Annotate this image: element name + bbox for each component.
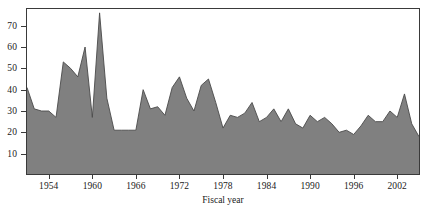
x-tick-label: 1966 xyxy=(126,181,145,192)
x-tick-mark xyxy=(310,175,311,179)
y-tick-label: 20 xyxy=(7,127,17,137)
x-axis: Fiscal year 1954196019661972197819841990… xyxy=(0,175,426,209)
y-tick-label: 50 xyxy=(7,63,17,73)
x-tick-label: 2002 xyxy=(388,181,407,192)
x-tick-label: 1960 xyxy=(83,181,102,192)
chart-container: 10203040506070 Fiscal year 1954196019661… xyxy=(0,0,426,209)
x-tick-mark xyxy=(136,175,137,179)
x-tick-label: 1978 xyxy=(213,181,232,192)
plot-area xyxy=(26,8,420,175)
y-tick-label: 40 xyxy=(7,85,17,95)
x-tick-mark xyxy=(179,175,180,179)
x-tick-label: 1984 xyxy=(257,181,276,192)
x-tick-label: 1954 xyxy=(39,181,58,192)
y-tick-label: 10 xyxy=(7,149,17,159)
x-tick-mark xyxy=(267,175,268,179)
area-fill xyxy=(27,13,419,174)
x-tick-mark xyxy=(49,175,50,179)
area-series xyxy=(27,9,419,174)
x-tick-mark xyxy=(223,175,224,179)
x-tick-label: 1972 xyxy=(170,181,189,192)
x-tick-label: 1996 xyxy=(344,181,363,192)
y-tick-label: 60 xyxy=(7,42,17,52)
x-axis-title: Fiscal year xyxy=(202,195,243,206)
y-tick-label: 70 xyxy=(7,21,17,31)
x-tick-mark xyxy=(354,175,355,179)
x-tick-label: 1990 xyxy=(300,181,319,192)
x-tick-mark xyxy=(397,175,398,179)
y-tick-label: 30 xyxy=(7,106,17,116)
x-tick-mark xyxy=(92,175,93,179)
